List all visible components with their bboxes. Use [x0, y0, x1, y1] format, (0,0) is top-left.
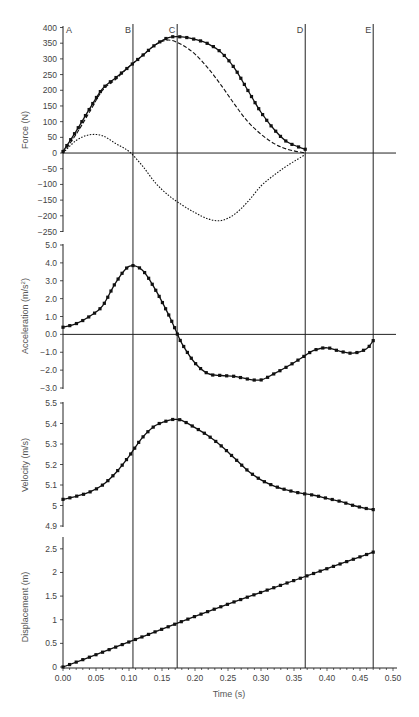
data-marker: [355, 351, 358, 354]
data-marker: [158, 295, 161, 298]
data-marker: [121, 643, 124, 646]
data-marker: [296, 359, 299, 362]
x-tick-label: 0.50: [385, 673, 402, 683]
data-marker: [88, 656, 91, 659]
y-tick-label: −250: [38, 227, 57, 237]
data-marker: [61, 498, 64, 501]
data-marker: [261, 113, 264, 116]
data-marker: [252, 593, 255, 596]
data-marker: [230, 454, 233, 457]
data-marker: [154, 289, 157, 292]
data-marker: [338, 562, 341, 565]
force-panel: 400350300250200150100500−50−100−150−200−…: [38, 23, 396, 237]
x-tick-label: 0.25: [220, 673, 237, 683]
y-tick-label: −2.0: [40, 365, 57, 375]
data-marker: [232, 600, 235, 603]
data-marker: [125, 266, 128, 269]
data-marker: [178, 35, 181, 38]
data-marker: [324, 496, 327, 499]
data-marker: [253, 378, 256, 381]
series-component-force-2: [63, 134, 305, 220]
data-marker: [164, 420, 167, 423]
event-label-e: E: [365, 25, 371, 35]
data-marker: [368, 345, 371, 348]
data-marker: [81, 319, 84, 322]
data-marker: [182, 345, 185, 348]
data-marker: [117, 277, 120, 280]
data-marker: [239, 77, 242, 80]
data-marker: [141, 435, 144, 438]
data-marker: [365, 553, 368, 556]
y-tick-label: 5.3: [45, 439, 57, 449]
x-tick-label: 0.40: [319, 673, 336, 683]
acceleration-axis-title: Acceleration (m/s2): [20, 278, 30, 354]
data-marker: [185, 421, 188, 424]
y-tick-label: −50: [43, 164, 58, 174]
data-marker: [197, 428, 200, 431]
y-tick-label: 400: [43, 23, 57, 33]
data-marker: [282, 488, 285, 491]
data-marker: [260, 378, 263, 381]
y-tick-label: 0: [52, 148, 57, 158]
data-marker: [265, 119, 268, 122]
data-marker: [348, 352, 351, 355]
data-marker: [95, 487, 98, 490]
data-marker: [351, 504, 354, 507]
data-marker: [372, 508, 375, 511]
data-marker: [101, 484, 104, 487]
y-tick-label: 1: [52, 615, 57, 625]
y-tick-label: 5.0: [45, 240, 57, 250]
data-marker: [272, 372, 275, 375]
data-marker: [253, 101, 256, 104]
data-marker: [176, 332, 179, 335]
series-velocity: [63, 419, 373, 509]
data-marker: [342, 350, 345, 353]
data-marker: [131, 264, 134, 267]
data-marker: [304, 148, 307, 151]
data-marker: [121, 464, 124, 467]
data-marker: [185, 36, 188, 39]
data-marker: [232, 65, 235, 68]
data-marker: [153, 630, 156, 633]
data-marker: [164, 307, 167, 310]
data-marker: [95, 96, 98, 99]
data-marker: [129, 452, 132, 455]
event-label-b: B: [125, 25, 131, 35]
event-label-a: A: [66, 25, 72, 35]
y-tick-label: 5.5: [45, 398, 57, 408]
x-tick-label: 0.20: [187, 673, 204, 683]
data-marker: [137, 441, 140, 444]
y-tick-label: 100: [43, 117, 57, 127]
data-marker: [94, 653, 97, 656]
data-marker: [116, 469, 119, 472]
y-tick-label: 2: [52, 567, 57, 577]
data-marker: [75, 322, 78, 325]
data-marker: [133, 447, 136, 450]
data-marker: [305, 574, 308, 577]
data-marker: [299, 577, 302, 580]
data-marker: [82, 493, 85, 496]
data-marker: [194, 362, 197, 365]
y-tick-label: −100: [38, 179, 57, 189]
data-marker: [205, 371, 208, 374]
data-marker: [266, 588, 269, 591]
x-axis-title: Time (s): [213, 689, 246, 699]
y-tick-label: 50: [48, 132, 58, 142]
y-tick-label: 200: [43, 85, 57, 95]
data-marker: [98, 307, 101, 310]
data-marker: [240, 464, 243, 467]
data-marker: [106, 479, 109, 482]
data-marker: [276, 486, 279, 489]
data-marker: [345, 560, 348, 563]
data-marker: [101, 651, 104, 654]
data-marker: [73, 132, 76, 135]
data-marker: [158, 422, 161, 425]
data-marker: [279, 135, 282, 138]
data-marker: [214, 440, 217, 443]
data-marker: [113, 283, 116, 286]
data-marker: [245, 468, 248, 471]
data-marker: [218, 49, 221, 52]
y-tick-label: 2.0: [45, 294, 57, 304]
data-marker: [109, 289, 112, 292]
data-marker: [218, 374, 221, 377]
